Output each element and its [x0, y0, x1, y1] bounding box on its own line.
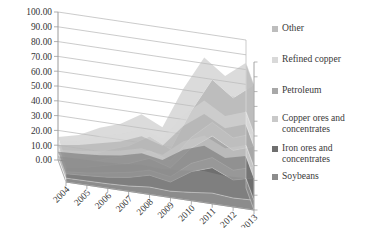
legend-item[interactable]: Other	[272, 22, 367, 33]
legend-swatch-icon	[272, 26, 278, 32]
legend-item-label: Other	[282, 22, 304, 33]
y-axis-tick-label: 0.00	[36, 155, 53, 165]
legend-item-label: Refined copper	[282, 53, 341, 64]
legend-item-label: Petroleum	[282, 84, 321, 95]
legend-item[interactable]: Iron ores and concentrates	[272, 142, 367, 164]
y-axis-tick-label: 90.00	[31, 22, 52, 32]
legend-swatch-icon	[272, 174, 278, 180]
x-axis-tick-label: 2008	[135, 197, 156, 218]
legend-item[interactable]: Copper ores and concentrates	[272, 112, 367, 134]
x-axis-tick-label: 2007	[114, 193, 135, 214]
x-axis-tick-label: 2006	[93, 190, 114, 211]
y-axis-tick-label: 60.00	[31, 67, 52, 77]
legend-item-label: Soybeans	[282, 170, 319, 181]
y-axis-tick-label: 40.00	[31, 96, 52, 106]
legend-swatch-icon	[272, 88, 278, 94]
y-axis-tick-label: 100.00	[26, 7, 52, 17]
y-axis-tick-label: 30.00	[31, 111, 52, 121]
y-axis: 0.0010.0020.0030.0040.0050.0060.0070.008…	[26, 7, 58, 165]
y-axis-tick-label: 20.00	[31, 126, 52, 136]
legend-item-label: Copper ores and concentrates	[282, 112, 367, 134]
right-wall	[246, 62, 258, 210]
x-axis-tick-label: 2009	[155, 200, 176, 221]
legend-item[interactable]: Petroleum	[272, 84, 367, 95]
stacked-area-plot: 0.0010.0020.0030.0040.0050.0060.0070.008…	[0, 0, 265, 228]
x-axis-tick-label: 2004	[51, 184, 72, 205]
area-series-group	[58, 57, 254, 210]
legend-swatch-icon	[272, 57, 278, 63]
legend-swatch-icon	[272, 116, 278, 122]
y-axis-tick-label: 80.00	[31, 37, 52, 47]
chart-legend: OtherRefined copperPetroleumCopper ores …	[272, 0, 367, 228]
y-axis-tick-label: 70.00	[31, 52, 52, 62]
x-axis-tick-label: 2010	[176, 203, 197, 224]
legend-swatch-icon	[272, 146, 278, 152]
y-axis-tick-label: 50.00	[31, 81, 52, 91]
legend-item-label: Iron ores and concentrates	[282, 142, 367, 164]
chart-container: 0.0010.0020.0030.0040.0050.0060.0070.008…	[0, 0, 367, 228]
x-axis-tick-label: 2005	[72, 187, 93, 208]
x-axis-tick-label: 2013	[239, 212, 260, 228]
y-axis-tick-label: 10.00	[31, 141, 52, 151]
legend-item[interactable]: Refined copper	[272, 53, 367, 64]
x-axis-tick-label: 2012	[218, 209, 239, 228]
legend-item[interactable]: Soybeans	[272, 170, 367, 181]
x-axis-tick-label: 2011	[198, 206, 218, 226]
